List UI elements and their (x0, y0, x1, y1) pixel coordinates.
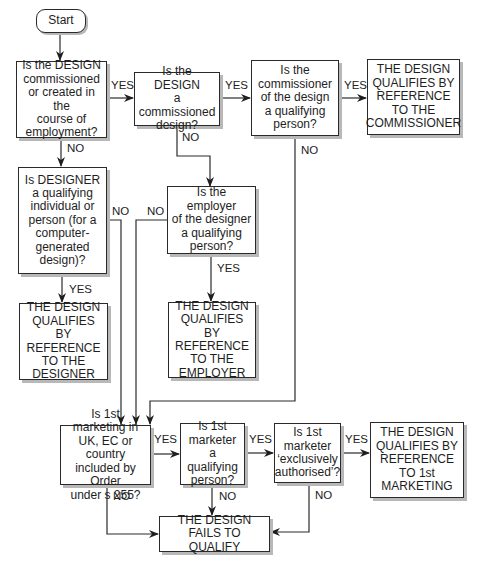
start-label: Start (48, 14, 73, 27)
edge-label-yes: YES (154, 433, 177, 445)
result-qualifies-employer: THE DESIGN QUALIFIES BY REFERENCE TO THE… (168, 302, 256, 378)
question-commissioned-design: Is the DESIGN a commissioned design? (134, 72, 220, 126)
edge-label-no: NO (219, 490, 236, 502)
question-commissioner-qualifying: Is the commissioner of the design a qual… (251, 60, 339, 136)
edge-label-no: NO (147, 205, 164, 217)
edge-label-yes: YES (111, 79, 134, 91)
edge-label-yes: YES (344, 79, 367, 91)
question-employer-qualifying: Is the employer of the designer a qualif… (167, 186, 256, 254)
edge-label-no: NO (315, 489, 332, 501)
question-designer-qualifying: Is DESIGNER a qualifying individual or p… (18, 167, 107, 274)
edge-label-yes: YES (225, 79, 248, 91)
result-qualifies-commissioner: THE DESIGN QUALIFIES BY REFERENCE TO THE… (367, 59, 460, 135)
edge-label-yes: YES (345, 433, 368, 445)
edge-label-no: NO (182, 131, 199, 143)
edge-label-no: NO (113, 490, 130, 502)
result-qualifies-designer: THE DESIGN QUALIFIES BY REFERENCE TO THE… (19, 303, 108, 380)
edge-label-yes: YES (217, 262, 240, 274)
result-qualifies-first-marketing: THE DESIGN QUALIFIES BY REFERENCE TO 1st… (370, 422, 464, 498)
edge-label-yes: YES (249, 433, 272, 445)
question-first-marketing: Is 1st marketing in UK, EC or country in… (60, 425, 151, 485)
question-marketer-qualifying: Is 1st marketer a qualifying person? (180, 423, 245, 485)
edge-label-no: NO (67, 142, 84, 154)
question-commissioned-or-employment: Is the DESIGN commissioned or created in… (16, 61, 107, 138)
question-exclusively-authorised: Is 1st marketer ‘exclusively authorised’… (274, 423, 341, 483)
edge-label-no: NO (301, 144, 318, 156)
start-node: Start (36, 9, 86, 33)
edge-label-yes: YES (69, 283, 92, 295)
edge-label-no: NO (112, 205, 129, 217)
result-fails-to-qualify: THE DESIGN FAILS TO QUALIFY (159, 516, 270, 552)
